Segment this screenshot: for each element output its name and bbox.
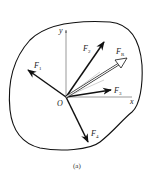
label-f4: F 4: [90, 129, 99, 139]
figure-caption: (a): [73, 162, 81, 170]
body-outline: [9, 22, 142, 150]
label-fr: F R: [115, 47, 125, 57]
svg-text:4: 4: [96, 134, 99, 139]
svg-text:1: 1: [39, 66, 42, 71]
svg-text:R: R: [121, 52, 125, 57]
label-f3: F 3: [113, 86, 122, 96]
y-axis-label: y: [58, 26, 63, 35]
force-diagram: y x O F 1 F 2 F R F 3 F 4 (a): [0, 0, 161, 181]
svg-text:2: 2: [88, 49, 91, 54]
force-f1-arrow: [28, 70, 66, 97]
label-f2: F 2: [82, 44, 91, 54]
svg-text:3: 3: [119, 91, 122, 96]
force-f4-arrow: [66, 97, 88, 142]
x-axis-label: x: [129, 97, 134, 106]
origin-label: O: [57, 99, 63, 108]
label-f1: F 1: [33, 61, 42, 71]
